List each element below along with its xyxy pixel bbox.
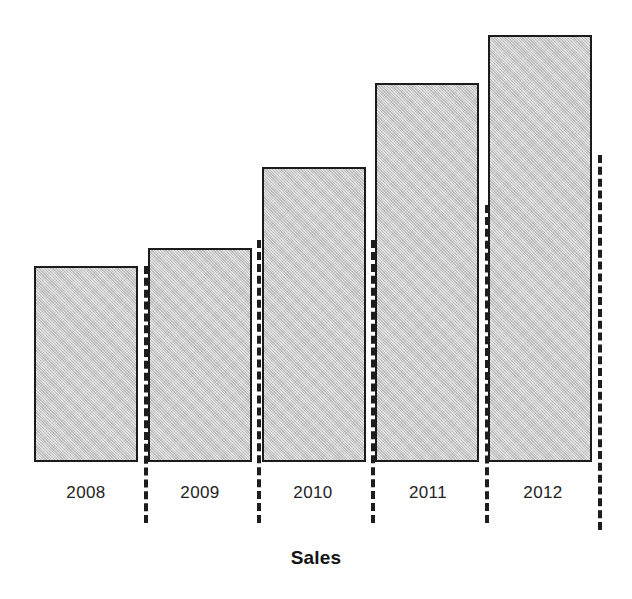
bar-2011[interactable] xyxy=(375,83,479,462)
bar-chart: 2008 2009 2010 2011 2012 Sales xyxy=(0,0,632,599)
category-divider-2 xyxy=(257,240,261,523)
category-divider-3 xyxy=(371,240,375,523)
bar-2010[interactable] xyxy=(262,167,366,462)
x-tick-label-2009: 2009 xyxy=(148,483,252,503)
x-tick-label-2010: 2010 xyxy=(261,483,365,503)
bar-2008[interactable] xyxy=(34,266,138,462)
category-divider-4 xyxy=(485,205,489,523)
x-tick-label-2012: 2012 xyxy=(491,483,595,503)
category-divider-5 xyxy=(598,155,602,530)
bar-2009[interactable] xyxy=(148,248,252,462)
x-tick-label-2008: 2008 xyxy=(34,483,138,503)
plot-area: 2008 2009 2010 2011 2012 Sales xyxy=(0,0,632,599)
bar-2012[interactable] xyxy=(488,35,592,462)
x-tick-label-2011: 2011 xyxy=(376,483,480,503)
x-axis-title: Sales xyxy=(0,547,632,569)
